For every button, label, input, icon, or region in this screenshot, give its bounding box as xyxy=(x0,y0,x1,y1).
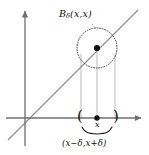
ball-center-point xyxy=(94,45,100,51)
math-figure-delta-ball: ( ) Bδ(x,x) x (x−δ,x+δ) xyxy=(0,0,149,155)
drop-lines xyxy=(81,48,115,119)
ball-label-args: (x,x) xyxy=(70,8,92,19)
interval-open-paren: ( xyxy=(77,109,83,124)
ball-label-leader xyxy=(92,24,97,31)
ball-label: Bδ(x,x) xyxy=(59,9,92,20)
interval-close-paren: ) xyxy=(113,109,119,124)
interval-label: (x−δ,x+δ) xyxy=(62,139,106,148)
axis-point-label: x xyxy=(95,121,100,129)
figure-canvas xyxy=(0,0,149,155)
